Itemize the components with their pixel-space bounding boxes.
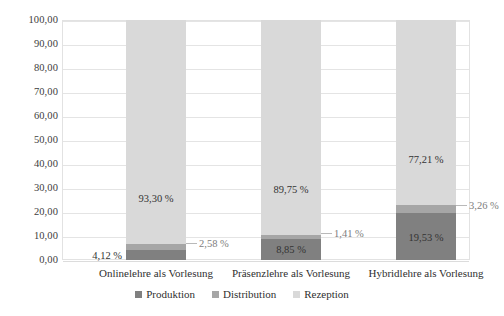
bar-column[interactable]: 19,53 %3,26 %77,21 % (396, 20, 456, 260)
bar-column[interactable]: 4,12 %2,58 %93,30 % (126, 20, 186, 260)
bar-segment-rezeption[interactable] (396, 20, 456, 205)
legend-label: Produktion (146, 288, 195, 300)
bar-segment-distribution[interactable] (396, 205, 456, 213)
bar-segment-distribution[interactable] (261, 235, 321, 238)
segment-callout-label: 2,58 % (199, 238, 229, 249)
y-axis-tick-label: 10,00 (2, 231, 58, 242)
y-axis-tick-label: 0,00 (2, 255, 58, 266)
legend-label: Distribution (223, 288, 276, 300)
y-axis-tick-label: 90,00 (2, 39, 58, 50)
bar-segment-rezeption[interactable] (126, 20, 186, 244)
x-axis-category-label: Hybridlehre als Vorlesung (336, 267, 504, 279)
legend-swatch-icon (293, 291, 300, 298)
legend-swatch-icon (212, 291, 219, 298)
y-axis-tick-label: 60,00 (2, 111, 58, 122)
callout-leader-line (186, 243, 197, 244)
y-axis-tick-label: 50,00 (2, 135, 58, 146)
y-axis-tick-label: 80,00 (2, 63, 58, 74)
segment-value-label: 77,21 % (396, 154, 456, 165)
y-axis-tick-label: 70,00 (2, 87, 58, 98)
legend-item[interactable]: Produktion (135, 288, 195, 300)
chart-legend: ProduktionDistributionRezeption (0, 288, 484, 300)
bar-segment-distribution[interactable] (126, 244, 186, 250)
legend-swatch-icon (135, 291, 142, 298)
y-axis-tick-label: 30,00 (2, 183, 58, 194)
segment-callout-label: 3,26 % (469, 200, 499, 211)
legend-item[interactable]: Rezeption (293, 288, 349, 300)
legend-label: Rezeption (304, 288, 349, 300)
legend-item[interactable]: Distribution (212, 288, 276, 300)
segment-value-label: 8,85 % (261, 244, 321, 255)
segment-value-label: 19,53 % (396, 232, 456, 243)
y-axis-tick-label: 100,00 (2, 15, 58, 26)
segment-value-label: 93,30 % (126, 193, 186, 204)
segment-value-label: 4,12 % (92, 250, 122, 261)
segment-value-label: 89,75 % (261, 184, 321, 195)
y-axis: 100,0090,0080,0070,0060,0050,0040,0030,0… (0, 20, 58, 260)
segment-callout-label: 1,41 % (334, 228, 364, 239)
bar-column[interactable]: 8,85 %1,41 %89,75 % (261, 20, 321, 260)
y-axis-tick-label: 20,00 (2, 207, 58, 218)
callout-leader-line (321, 233, 332, 234)
y-axis-tick-label: 40,00 (2, 159, 58, 170)
bars-layer: 4,12 %2,58 %93,30 %8,85 %1,41 %89,75 %19… (62, 20, 470, 260)
callout-leader-line (456, 205, 467, 206)
gridline (63, 261, 469, 262)
bar-segment-produktion[interactable] (126, 250, 186, 260)
bar-segment-rezeption[interactable] (261, 20, 321, 235)
